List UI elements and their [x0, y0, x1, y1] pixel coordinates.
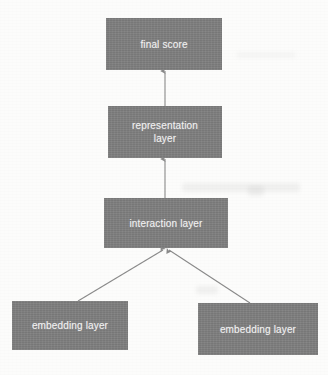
node-interaction-layer[interactable]: interaction layer: [104, 198, 228, 248]
node-interaction-layer-label: interaction layer: [125, 217, 206, 230]
node-embedding-layer-right-label: embedding layer: [216, 323, 300, 336]
edge-embedding-left-to-interaction: [78, 250, 163, 301]
node-representation-layer-label: representation layer: [128, 119, 202, 145]
node-final-score[interactable]: final score: [106, 18, 222, 70]
edge-embedding-right-to-interaction: [169, 250, 250, 303]
node-embedding-layer-left[interactable]: embedding layer: [12, 301, 128, 350]
node-final-score-label: final score: [136, 38, 191, 51]
diagram-canvas: final score representation layer interac…: [0, 0, 328, 375]
node-representation-layer[interactable]: representation layer: [108, 106, 222, 158]
node-embedding-layer-left-label: embedding layer: [28, 319, 112, 332]
node-embedding-layer-right[interactable]: embedding layer: [198, 303, 318, 355]
